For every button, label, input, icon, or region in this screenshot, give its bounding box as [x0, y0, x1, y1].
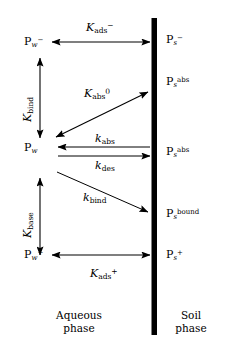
- aqueous-phase-line2: phase: [38, 322, 120, 335]
- label-k-abs: kabs: [95, 133, 115, 146]
- species-soil-bound: Psbound: [166, 208, 199, 221]
- soil-phase-line1: Soil: [163, 309, 219, 322]
- species-soil-abs-lower: Psabs: [166, 146, 189, 159]
- label-k-ads-minus: Kads−: [86, 22, 114, 35]
- label-k-abs-zero: Kabs0: [84, 88, 110, 101]
- sorption-diagram: Pw− Pw Pw+ Ps− Psabs Psabs Psbound Ps+ K…: [0, 0, 226, 359]
- soil-phase-caption: Soil phase: [163, 309, 219, 335]
- aqueous-phase-caption: Aqueous phase: [38, 309, 120, 335]
- label-K-bind-vertical: Kbind: [22, 97, 35, 122]
- species-soil-cation: Ps+: [166, 249, 183, 262]
- soil-phase-line2: phase: [163, 322, 219, 335]
- label-K-base-vertical: Kbase: [22, 212, 35, 238]
- aqueous-phase-line1: Aqueous: [38, 309, 120, 322]
- species-aqueous-anion: Pw−: [24, 36, 43, 49]
- label-k-bind: kbind: [83, 192, 107, 205]
- species-aqueous-neutral: Pw: [24, 142, 37, 155]
- label-k-des: kdes: [95, 160, 115, 173]
- species-soil-abs-upper: Psabs: [166, 76, 189, 89]
- soil-phase-bar: [152, 18, 158, 335]
- species-soil-anion: Ps−: [166, 34, 183, 47]
- label-k-ads-plus: Kads+: [90, 268, 118, 281]
- diagram-vector-layer: [0, 0, 226, 359]
- species-aqueous-cation: Pw+: [24, 249, 43, 262]
